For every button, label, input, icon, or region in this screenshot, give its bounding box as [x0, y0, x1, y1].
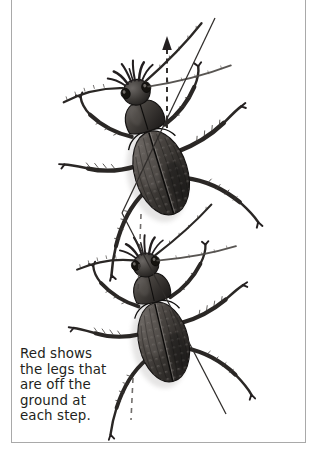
figure-caption: Red shows the legs that are off the grou… [20, 346, 150, 424]
figure-panel: Red shows the legs that are off the grou… [0, 0, 320, 455]
